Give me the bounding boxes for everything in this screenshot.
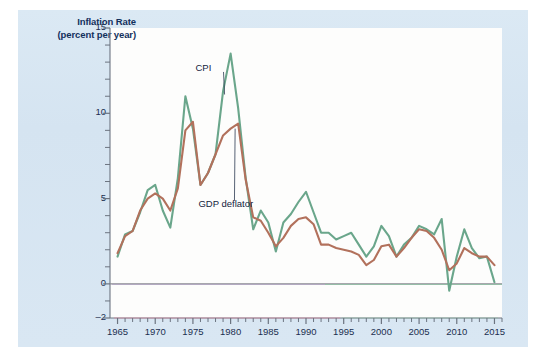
x-tick-label: 2000 <box>361 326 401 337</box>
figure-container: Inflation Rate (percent per year) –20510… <box>0 0 542 360</box>
x-tick-label: 1965 <box>98 326 138 337</box>
x-tick-label: 1990 <box>286 326 326 337</box>
x-tick-label: 2010 <box>437 326 477 337</box>
x-tick-label: 1985 <box>248 326 288 337</box>
x-tick-label: 1995 <box>324 326 364 337</box>
x-tick-label: 1970 <box>135 326 175 337</box>
x-axis-tick-labels: 1965197019751980198519901995200020052010… <box>0 0 542 360</box>
x-tick-label: 1975 <box>173 326 213 337</box>
series-annotation-label: CPI <box>196 62 212 73</box>
x-tick-label: 1980 <box>211 326 251 337</box>
x-tick-label: 2015 <box>474 326 514 337</box>
series-annotation-label: GDP deflator <box>198 198 253 209</box>
x-tick-label: 2005 <box>399 326 439 337</box>
